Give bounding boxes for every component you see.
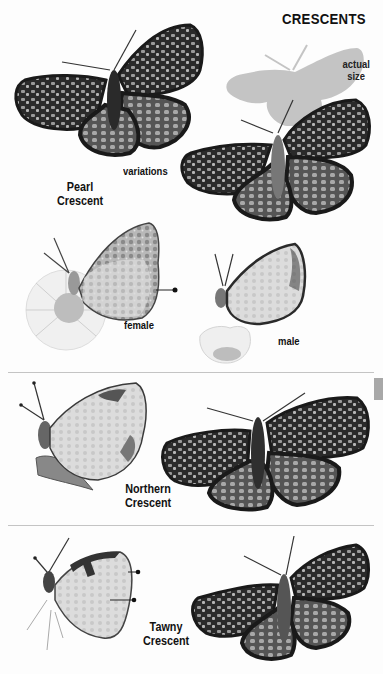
northern-crescent-underside <box>18 380 148 495</box>
antenna-club <box>32 381 36 385</box>
pearl-crescent-upperside-variation-2 <box>176 95 371 225</box>
species-line2: Crescent <box>139 634 193 648</box>
hindwing-right <box>286 157 352 213</box>
underside-wing <box>55 552 132 638</box>
antenna <box>286 536 294 575</box>
pointer-dot <box>173 288 178 293</box>
male-label: male <box>278 335 300 347</box>
actual-size-label: actual size <box>343 58 370 82</box>
antenna-club <box>19 403 23 407</box>
pearl-crescent-upperside-variation-1 <box>10 25 200 160</box>
hindwing-right <box>267 453 339 505</box>
variations-label: variations <box>123 165 168 177</box>
pointer-dot <box>136 570 141 575</box>
body <box>251 417 265 489</box>
hindwing-right <box>291 598 349 648</box>
antenna-club <box>33 556 37 560</box>
actual-size-line1: actual <box>343 58 370 70</box>
antenna <box>215 254 223 286</box>
underside-wing <box>50 383 146 480</box>
actual-size-line2: size <box>343 70 370 82</box>
species-line1: Pearl <box>53 180 107 194</box>
female-label: female <box>124 319 154 331</box>
daisy-icon <box>200 326 251 363</box>
pearl-crescent-female-underside <box>24 218 194 338</box>
species-line1: Tawny <box>139 620 193 634</box>
body <box>68 271 80 295</box>
body <box>271 135 285 199</box>
pointer-dot <box>132 598 137 603</box>
thumb-tab[interactable] <box>374 378 383 400</box>
northern-crescent-upperside <box>157 383 372 513</box>
antenna <box>49 538 69 572</box>
species-name-pearl-crescent: Pearl Crescent <box>53 180 107 208</box>
body <box>215 288 227 308</box>
legs <box>27 600 63 650</box>
silhouette-antenna <box>265 55 290 70</box>
antenna <box>241 120 273 133</box>
species-line2: Crescent <box>53 194 107 208</box>
antenna <box>62 62 110 70</box>
antenna <box>244 556 281 575</box>
forewing-right <box>267 398 368 459</box>
antenna <box>207 408 253 421</box>
forewing-right <box>291 545 369 599</box>
tawny-crescent-upperside <box>186 533 371 663</box>
body <box>43 571 55 593</box>
tawny-crescent-underside <box>25 550 145 650</box>
body <box>107 70 121 130</box>
antenna <box>35 558 47 572</box>
page-title: CRESCENTS <box>282 10 366 27</box>
species-name-tawny-crescent: Tawny Crescent <box>139 620 193 648</box>
forewing-right <box>118 25 202 95</box>
antenna <box>278 100 293 133</box>
antenna <box>225 254 233 286</box>
silhouette-antenna <box>293 45 307 70</box>
section-divider <box>8 525 374 526</box>
body <box>277 574 291 642</box>
section-divider <box>8 372 374 373</box>
forewing-right <box>284 100 369 158</box>
